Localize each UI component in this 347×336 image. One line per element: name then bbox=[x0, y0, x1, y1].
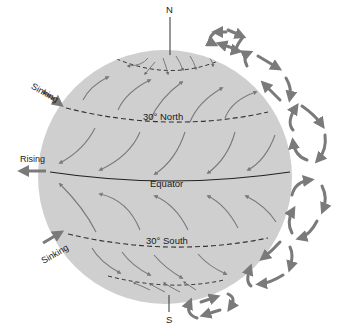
circulation-diagram: N S 30° North Equator 30° South Sinking … bbox=[0, 0, 347, 336]
diagram-graphics bbox=[0, 0, 347, 336]
hadley-cell-north bbox=[290, 106, 325, 160]
lat-30-south-label: 30° South bbox=[146, 236, 188, 246]
north-pole-label: N bbox=[166, 5, 173, 15]
rising-label: Rising bbox=[20, 155, 45, 164]
hadley-cell-south bbox=[289, 180, 325, 238]
polar-cell-north bbox=[210, 30, 243, 51]
lat-30-north-label: 30° North bbox=[143, 112, 183, 122]
south-pole-label: S bbox=[166, 315, 172, 325]
equator-label: Equator bbox=[150, 179, 183, 189]
